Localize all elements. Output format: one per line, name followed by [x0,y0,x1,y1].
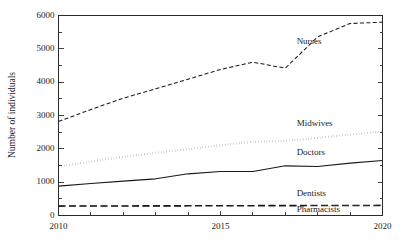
series-line-nurses [59,22,383,121]
series-annotation-nurses: Nurses [297,36,322,46]
y-axis-title: Number of individuals [7,72,17,158]
series-annotation-doctors: Doctors [297,147,326,157]
series-paths [59,22,383,206]
y-tick-label: 5000 [37,43,56,53]
y-tick-label: 4000 [37,76,56,86]
y-tick-label: 0 [50,210,55,220]
x-tick-label: 2020 [374,221,393,231]
y-axis-ticks [59,16,383,216]
y-tick-label: 1000 [37,176,56,186]
figure-container: 0100020003000400050006000 201020152020 N… [0,0,407,250]
series-annotations: NursesMidwivesDoctorsDentistsPharmacists [297,36,341,214]
y-tick-label: 2000 [37,143,56,153]
series-annotation-pharmacists: Pharmacists [297,204,341,214]
series-line-midwives [59,132,383,167]
series-annotation-midwives: Midwives [297,118,333,128]
axis-frame [59,16,383,216]
series-annotation-dentists: Dentists [297,188,327,198]
series-line-doctors [59,161,383,187]
x-axis-tick-labels: 201020152020 [50,221,393,231]
plot-frame [59,16,383,216]
line-chart: 0100020003000400050006000 201020152020 N… [0,0,407,250]
x-tick-label: 2010 [50,221,69,231]
y-tick-label: 3000 [37,110,56,120]
y-axis-tick-labels: 0100020003000400050006000 [37,10,56,220]
y-tick-label: 6000 [37,10,56,20]
x-tick-label: 2015 [212,221,231,231]
